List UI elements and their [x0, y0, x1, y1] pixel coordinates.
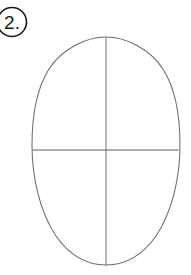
step-marker: 2. — [0, 8, 27, 37]
figure-svg: 2. — [0, 0, 191, 275]
step-marker-label: 2. — [4, 12, 20, 33]
drawing-canvas: 2. — [0, 0, 191, 275]
